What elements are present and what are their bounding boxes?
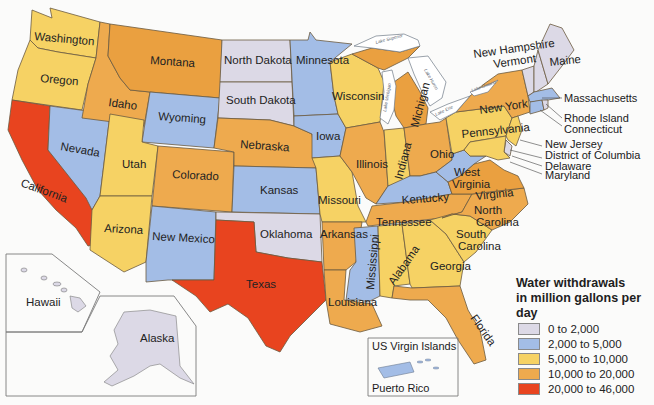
label-us-virgin-islands: US Virgin Islands — [372, 340, 457, 352]
legend-item: 0 to 2,000 — [518, 321, 654, 336]
label-west-virginia-2: Virginia — [452, 178, 491, 190]
legend-item: 20,000 to 46,000 — [518, 381, 654, 396]
legend-label: 10,000 to 20,000 — [548, 368, 634, 380]
label-wisconsin: Wisconsin — [332, 90, 384, 102]
label-minnesota: Minnesota — [296, 54, 350, 66]
legend-item: 2,000 to 5,000 — [518, 336, 654, 351]
label-maryland: Maryland — [545, 169, 590, 181]
label-louisiana: Louisiana — [328, 296, 378, 308]
label-kansas: Kansas — [260, 184, 299, 196]
label-south-carolina-1: South — [456, 228, 486, 240]
label-tennessee: Tennessee — [376, 216, 432, 228]
label-massachusetts: Massachusetts — [564, 92, 638, 104]
label-puerto-rico: Puerto Rico — [372, 382, 429, 394]
label-arkansas: Arkansas — [320, 228, 368, 240]
legend-swatch — [518, 383, 540, 395]
state-florida — [392, 286, 486, 364]
state-connecticut — [530, 100, 544, 114]
puerto-rico-shape — [378, 362, 414, 378]
legend-swatch — [518, 368, 540, 380]
legend-label: 0 to 2,000 — [548, 323, 599, 335]
label-georgia: Georgia — [430, 260, 472, 272]
label-oklahoma: Oklahoma — [260, 228, 313, 240]
label-illinois: Illinois — [356, 158, 388, 170]
legend-swatch — [518, 338, 540, 350]
label-north-carolina-2: Carolina — [476, 216, 519, 228]
legend-label: 20,000 to 46,000 — [548, 383, 634, 395]
label-missouri: Missouri — [318, 194, 361, 206]
legend-swatch — [518, 323, 540, 335]
label-north-carolina-1: North — [474, 204, 502, 216]
label-south-dakota: South Dakota — [226, 94, 296, 106]
label-maine: Maine — [549, 53, 581, 68]
label-arizona: Arizona — [104, 222, 144, 236]
label-iowa: Iowa — [316, 130, 341, 142]
label-north-dakota: North Dakota — [224, 54, 292, 66]
label-west-virginia-1: West — [454, 166, 481, 178]
hawaii-inset-frame — [6, 254, 100, 332]
legend-title-line1: Water withdrawals — [516, 276, 654, 291]
legend-item: 5,000 to 10,000 — [518, 351, 654, 366]
legend-label: 5,000 to 10,000 — [548, 353, 628, 365]
label-south-carolina-2: Carolina — [458, 240, 501, 252]
label-hawaii: Hawaii — [26, 296, 61, 308]
label-colorado: Colorado — [172, 168, 219, 182]
label-alaska: Alaska — [140, 332, 175, 344]
legend-item: 10,000 to 20,000 — [518, 366, 654, 381]
alaska-shape — [104, 310, 194, 386]
legend-title-line2: in million gallons per day — [516, 291, 654, 321]
virgin-islands-shape — [417, 359, 439, 369]
label-utah: Utah — [122, 158, 146, 170]
legend-swatch — [518, 353, 540, 365]
label-ohio: Ohio — [430, 148, 454, 160]
legend-label: 2,000 to 5,000 — [548, 338, 622, 350]
label-texas: Texas — [246, 278, 276, 290]
legend: Water withdrawals in million gallons per… — [516, 276, 654, 396]
label-connecticut: Connecticut — [564, 123, 622, 135]
